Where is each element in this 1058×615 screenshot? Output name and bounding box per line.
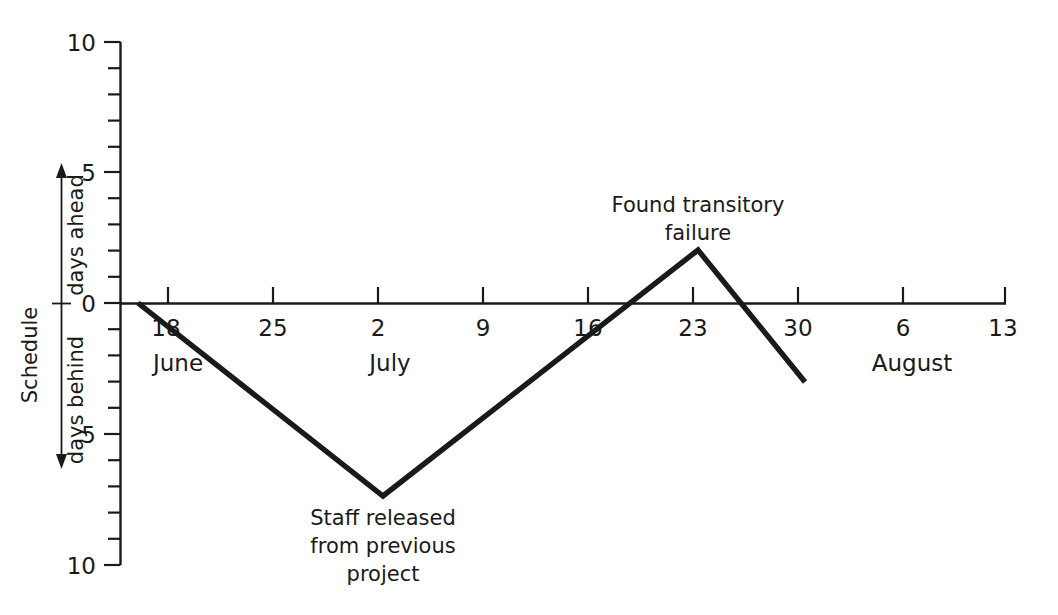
schedule-variance-line <box>138 250 805 496</box>
trough-annotation-line1: Staff released <box>310 506 455 530</box>
y-axis-label-schedule: Schedule <box>18 307 42 404</box>
data-series-schedule-variance <box>138 250 805 496</box>
y-axis-label-ahead: days ahead <box>64 174 88 296</box>
trough-annotation-line3: project <box>347 562 420 586</box>
y-axis-label-behind: days behind <box>64 336 88 464</box>
x-tick-label-7: 6 <box>896 315 911 341</box>
y-tick-label-top: 10 <box>67 30 96 56</box>
peak-annotation: Found transitory failure <box>612 193 785 245</box>
x-tick-label-6: 30 <box>783 315 812 341</box>
x-axis-group: 18 25 2 9 16 23 30 6 13 June July August <box>121 287 1018 376</box>
x-month-label-july: July <box>367 350 410 376</box>
y-axis-group: 10 5 0 5 10 <box>67 30 121 579</box>
x-tick-label-8: 13 <box>988 315 1017 341</box>
chart-canvas: 10 5 0 5 10 days ahead days behind Sched… <box>0 0 1058 615</box>
y-axis-title-group: days ahead days behind Schedule <box>18 163 88 469</box>
trough-annotation-line2: from previous <box>310 534 455 558</box>
x-month-label-june: June <box>151 350 203 376</box>
peak-annotation-line1: Found transitory <box>612 193 785 217</box>
y-tick-label-bottom: 10 <box>67 553 96 579</box>
x-tick-label-2: 2 <box>371 315 386 341</box>
x-tick-label-1: 25 <box>258 315 287 341</box>
peak-annotation-line2: failure <box>665 221 731 245</box>
trough-annotation: Staff released from previous project <box>310 506 455 586</box>
x-tick-label-5: 23 <box>678 315 707 341</box>
x-month-label-august: August <box>872 350 953 376</box>
x-tick-label-3: 9 <box>476 315 491 341</box>
schedule-variance-chart: 10 5 0 5 10 days ahead days behind Sched… <box>0 0 1058 615</box>
